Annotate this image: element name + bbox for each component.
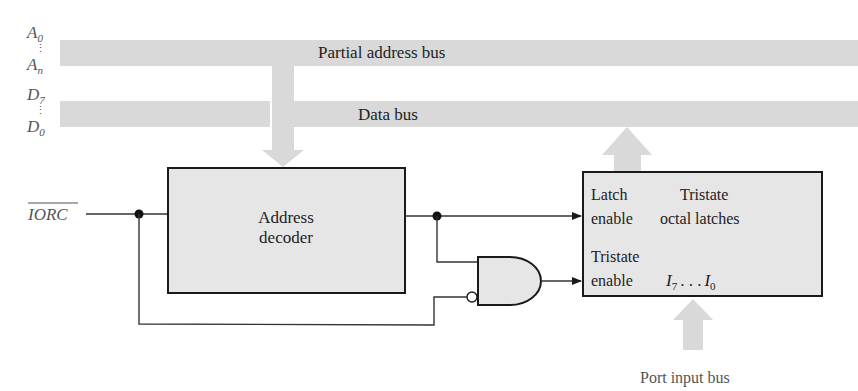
latch-title-line1: Tristate (680, 186, 728, 203)
data-bus-band-left (60, 101, 270, 127)
latch-title-line2: octal latches (660, 210, 740, 227)
address-bit-labels: A0 ⋮ An (26, 23, 46, 76)
data-bit-labels: D7 ⋮ D0 (26, 85, 46, 138)
data-bit-d7: D7 (26, 85, 45, 106)
tristate-enable-label-line1: Tristate (591, 248, 639, 265)
input-port-circuit-diagram: Partial address bus Data bus Port input … (0, 0, 858, 391)
latch-enable-label-line2: enable (591, 210, 633, 227)
address-bit-a0: A0 (26, 23, 43, 44)
address-bit-an: An (26, 55, 43, 76)
address-dots: ⋮ (35, 42, 46, 54)
decoder-to-gate-wire (437, 216, 478, 262)
port-input-bus-arrow (673, 299, 713, 350)
latch-enable-label-line1: Latch (591, 186, 627, 203)
data-bit-d0: D0 (26, 117, 45, 138)
and-gate (478, 257, 541, 305)
inverting-bubble (467, 292, 477, 302)
iorc-label: IORC (27, 205, 68, 224)
address-bus-band (60, 40, 858, 66)
data-bus-up-arrow (602, 127, 652, 172)
address-decoder-label-line1: Address (258, 208, 314, 227)
address-bus-label: Partial address bus (318, 43, 445, 62)
port-input-bus-label: Port input bus (640, 369, 730, 387)
address-decoder-label-line2: decoder (259, 228, 313, 247)
data-bus-label: Data bus (358, 105, 418, 124)
data-dots: ⋮ (35, 104, 46, 116)
tristate-enable-label-line2: enable (591, 272, 633, 289)
